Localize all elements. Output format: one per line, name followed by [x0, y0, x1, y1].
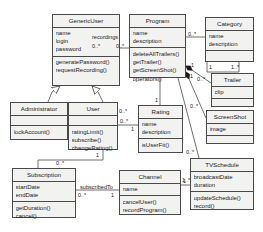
operation: changeRating() — [72, 144, 116, 152]
class-name: Subscription — [13, 169, 75, 182]
attribute: broadcastDate — [194, 173, 252, 181]
mult-user-channel: 0..* — [119, 108, 127, 114]
class-operations — [212, 99, 253, 109]
mult-rating-user: 1 — [131, 126, 134, 132]
class-administrator[interactable]: Administrator lockAccount() — [10, 102, 68, 140]
mult-program-category: 0..* — [188, 31, 196, 37]
mult-trailer-program: 0..* — [197, 76, 205, 82]
class-attributes: name description — [130, 28, 185, 49]
operation: isUserFit() — [142, 141, 181, 149]
class-program[interactable]: Program name description deleteAllTraile… — [129, 14, 186, 78]
class-attributes: image — [207, 124, 253, 137]
mult-program-rating: 1 — [155, 97, 158, 103]
attribute: password — [56, 45, 118, 53]
class-name: Rating — [139, 106, 182, 119]
class-attributes — [11, 116, 67, 127]
class-operations: updateSchedule() record() — [191, 192, 253, 212]
mult-program-recordings: 0..* — [116, 43, 124, 49]
attribute: duration — [194, 181, 252, 189]
class-name: Channel — [120, 171, 180, 184]
operation: updateSchedule() — [194, 194, 252, 202]
operation: record() — [194, 202, 252, 210]
operation: getTrailer() — [133, 58, 184, 66]
class-subscription[interactable]: Subscription startDate endDate getDurati… — [12, 168, 76, 218]
attribute: startDate — [16, 183, 74, 191]
class-name: GenericUser — [53, 15, 119, 28]
class-operations — [206, 51, 253, 61]
mult-subscription-channel: 0..* — [78, 192, 86, 198]
class-trailer[interactable]: Trailer clip — [211, 73, 254, 107]
class-attributes: clip — [212, 87, 253, 100]
assoc-label-recordings: recordings — [92, 34, 118, 41]
attribute: name — [123, 185, 179, 193]
operation: lockAccount() — [14, 128, 66, 136]
operation: generatePassword() — [56, 58, 118, 66]
operation: operators() — [133, 75, 184, 83]
attribute: description — [142, 128, 181, 136]
class-user[interactable]: User ratingLimit() subscribe() changeRat… — [68, 102, 118, 150]
class-tvschedule[interactable]: TVSchedule broadcastDate duration update… — [190, 158, 254, 210]
class-operations: ratingLimit() subscribe() changeRating() — [69, 126, 117, 154]
uml-class-diagram: GenericUser name login password generate… — [0, 0, 263, 232]
class-operations: generatePassword() requestRecording() — [53, 57, 119, 77]
operation: requestRecording() — [56, 66, 118, 74]
class-name: Trailer — [212, 74, 253, 87]
mult-category-program-many: 1..* — [231, 64, 239, 70]
operation: subscribe() — [72, 136, 116, 144]
mult-category-program-one: 1 — [209, 64, 212, 70]
attribute: name — [209, 32, 252, 40]
mult-genericuser-recordings: 0..* — [92, 43, 100, 49]
mult-user-subscription: 1 — [96, 152, 99, 158]
class-name: Administrator — [11, 103, 67, 116]
class-operations: lockAccount() — [11, 126, 67, 138]
class-attributes: name description — [139, 119, 182, 140]
class-generic-user[interactable]: GenericUser name login password generate… — [52, 14, 120, 86]
class-channel[interactable]: Channel name cancelUser() recordProgram(… — [119, 170, 181, 215]
operation: ratingLimit() — [72, 128, 116, 136]
attribute: endDate — [16, 191, 74, 199]
attribute: description — [209, 40, 252, 48]
class-attributes: name description — [206, 31, 253, 52]
class-category[interactable]: Category name description — [205, 17, 254, 62]
mult-channel-tvschedule: 1 — [183, 178, 186, 184]
attribute: image — [210, 125, 252, 133]
attribute: description — [133, 37, 184, 45]
class-attributes: startDate endDate — [13, 182, 75, 203]
mult-rating-program: 0..* — [120, 118, 128, 124]
class-name: User — [69, 103, 117, 116]
mult-program-trailer: 1 — [191, 62, 194, 68]
class-operations: getDuration() cancel() — [13, 202, 75, 222]
class-operations: isUserFit() — [139, 139, 182, 151]
mult-channel-subscription: 1 — [111, 192, 114, 198]
operation: cancel() — [16, 212, 74, 220]
operation: getDuration() — [16, 204, 74, 212]
class-rating[interactable]: Rating name description isUserFit() — [138, 105, 183, 153]
class-name: Program — [130, 15, 185, 28]
operation: cancelUser() — [123, 198, 179, 206]
class-name: Category — [206, 18, 253, 31]
class-name: ScreenShot — [207, 111, 253, 124]
mult-program-screenshot: 1 — [190, 73, 193, 79]
class-operations: cancelUser() recordProgram() — [120, 196, 180, 216]
class-attributes — [69, 116, 117, 127]
mult-screenshot-program: 0..* — [190, 103, 198, 109]
class-attributes: broadcastDate duration — [191, 172, 253, 193]
operation: deleteAllTrailers() — [133, 50, 184, 58]
attribute: name — [142, 120, 181, 128]
mult-subscription-user: 0..* — [56, 160, 64, 166]
attribute: clip — [215, 88, 252, 96]
operation: recordProgram() — [123, 206, 179, 214]
mult-program-tvschedule: 0..* — [186, 149, 194, 155]
class-operations: deleteAllTrailers() getTrailer() getScre… — [130, 48, 185, 84]
operation: getScreenShot() — [133, 66, 184, 74]
assoc-label-subscribed-to: subscribedTo — [80, 184, 113, 191]
class-screenshot[interactable]: ScreenShot image — [206, 110, 254, 144]
class-name: TVSchedule — [191, 159, 253, 172]
class-attributes: name login password — [53, 28, 119, 57]
class-operations — [207, 136, 253, 146]
class-attributes: name — [120, 184, 180, 197]
attribute: name — [133, 29, 184, 37]
